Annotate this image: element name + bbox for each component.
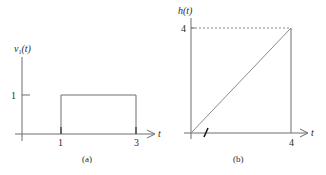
panel-b: h(t) 4 4 t (b) (178, 5, 314, 164)
y-tick-label: 4 (181, 23, 186, 34)
x-tick-label-1: 1 (58, 137, 63, 148)
x-tick-label-4: 4 (289, 137, 294, 148)
pulse-signal (61, 95, 136, 134)
caption-b: (b) (233, 154, 244, 164)
figure: v1(t) 1 1 3 t (a) h(t) 4 4 t (b) (0, 0, 326, 175)
x-axis-label: t (311, 127, 314, 138)
y-tick-label: 1 (11, 90, 16, 101)
x-tick-label-3: 3 (134, 137, 139, 148)
ramp-signal (191, 28, 291, 133)
panel-a: v1(t) 1 1 3 t (a) (11, 43, 161, 164)
x-axis-label: t (158, 128, 161, 139)
y-axis-label: h(t) (178, 5, 193, 17)
y-axis-label: v1(t) (14, 43, 32, 55)
caption-a: (a) (82, 154, 92, 164)
